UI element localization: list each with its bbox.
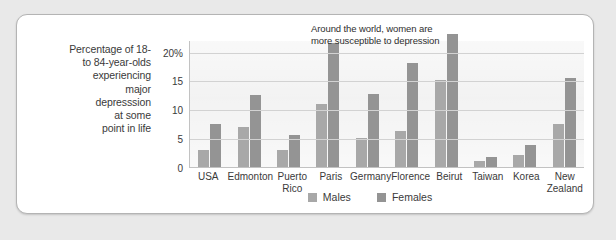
gridline bbox=[190, 81, 584, 82]
bar-males[interactable] bbox=[553, 124, 564, 167]
plot-wrapper: 05101520% USAEdmontonPuerto RicoParisGer… bbox=[156, 41, 584, 187]
bar-males[interactable] bbox=[474, 161, 485, 167]
chart-card: Percentage of 18- to 84-year-olds experi… bbox=[16, 14, 594, 214]
bar-group bbox=[308, 41, 347, 167]
y-tick-label: 5 bbox=[177, 134, 183, 145]
bar-females[interactable] bbox=[210, 124, 221, 167]
y-axis: 05101520% bbox=[156, 41, 187, 168]
bar-females[interactable] bbox=[368, 94, 379, 167]
y-tick-label: 10 bbox=[172, 105, 183, 116]
gridline bbox=[190, 110, 584, 111]
bar-group bbox=[387, 41, 426, 167]
bar-females[interactable] bbox=[565, 78, 576, 167]
gridline bbox=[190, 139, 584, 140]
bar-females[interactable] bbox=[525, 145, 536, 167]
bar-females[interactable] bbox=[407, 63, 418, 167]
bar-group bbox=[426, 41, 465, 167]
y-tick-label: 15 bbox=[172, 76, 183, 87]
legend-label-males: Males bbox=[323, 191, 351, 203]
bar-males[interactable] bbox=[395, 131, 406, 167]
bar-females[interactable] bbox=[447, 34, 458, 167]
bar-males[interactable] bbox=[356, 138, 367, 167]
gridline bbox=[190, 53, 584, 54]
bars-layer bbox=[190, 41, 584, 167]
bar-group bbox=[348, 41, 387, 167]
bar-males[interactable] bbox=[198, 150, 209, 167]
bar-group bbox=[229, 41, 268, 167]
y-axis-caption: Percentage of 18- to 84-year-olds experi… bbox=[29, 43, 151, 135]
bar-females[interactable] bbox=[486, 157, 497, 167]
bar-males[interactable] bbox=[513, 155, 524, 167]
bar-group bbox=[466, 41, 505, 167]
legend-item-males[interactable]: Males bbox=[308, 191, 351, 203]
y-tick-label: 0 bbox=[177, 163, 183, 174]
chart-annotation: Around the world, women are more suscept… bbox=[311, 23, 446, 46]
bar-males[interactable] bbox=[277, 150, 288, 167]
legend-swatch-females-icon bbox=[377, 193, 386, 202]
bar-males[interactable] bbox=[435, 80, 446, 167]
bar-group bbox=[505, 41, 544, 167]
plot-area bbox=[189, 41, 584, 168]
bar-group bbox=[545, 41, 584, 167]
legend-swatch-males-icon bbox=[308, 193, 317, 202]
bar-group bbox=[190, 41, 229, 167]
bar-group bbox=[269, 41, 308, 167]
bar-males[interactable] bbox=[316, 104, 327, 168]
legend-label-females: Females bbox=[392, 191, 432, 203]
bar-females[interactable] bbox=[328, 43, 339, 167]
bar-females[interactable] bbox=[250, 95, 261, 167]
bar-males[interactable] bbox=[238, 127, 249, 167]
legend: Males Females bbox=[156, 191, 584, 203]
legend-item-females[interactable]: Females bbox=[377, 191, 432, 203]
y-tick-label: 20% bbox=[163, 47, 183, 58]
